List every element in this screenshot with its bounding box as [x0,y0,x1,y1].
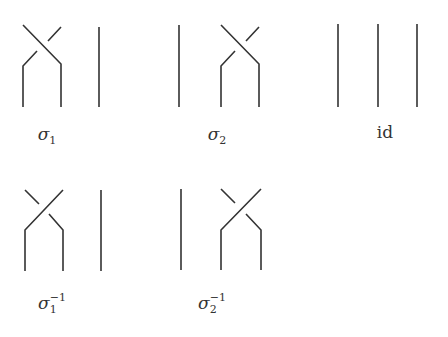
braid-sigma1 [23,25,99,107]
label-identity: id [377,124,393,141]
strand-under [23,27,61,107]
label-symbol: σ [198,293,210,313]
strand-over [23,25,61,107]
strand-over [221,25,259,107]
label-sigma2-inverse: σ2−1 [198,292,226,315]
strand-under [221,27,259,107]
braid-sigma2 [179,25,259,107]
braid-sigma2-inverse [181,189,261,270]
label-subscript: 1 [49,134,56,147]
strand-under [221,189,261,270]
label-superscript: −1 [50,291,66,304]
label-subscript: 2 [219,134,226,147]
strand-over [25,190,63,271]
braid-diagram: σ1 σ2 id σ1−1 σ2−1 [0,0,448,337]
label-sigma1-inverse: σ1−1 [38,292,66,315]
strand-under [25,190,63,271]
label-sigma1: σ1 [38,126,57,146]
label-sigma2: σ2 [208,126,227,146]
label-subscript: 2 [210,303,217,316]
braid-sigma1-inverse [25,190,101,271]
label-symbol: σ [208,124,220,144]
braid-identity [338,24,417,107]
label-symbol: σ [38,124,50,144]
label-superscript: −1 [210,291,226,304]
braid-strands-layer [0,0,448,337]
strand-over [221,189,261,270]
label-subscript: 1 [50,303,57,316]
label-symbol: σ [38,293,50,313]
label-symbol: id [377,122,393,142]
